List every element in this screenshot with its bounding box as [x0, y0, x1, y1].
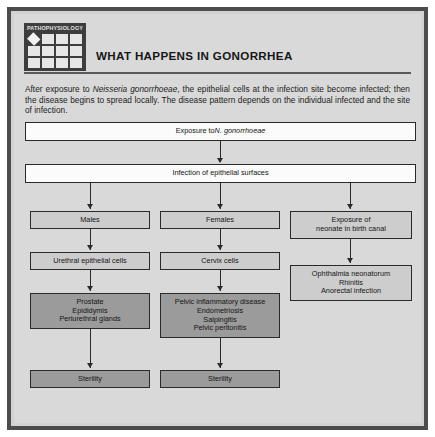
intro-paragraph: After exposure to Neisseria gonorrhoeae,… — [25, 84, 410, 116]
page-title: WHAT HAPPENS IN GONORRHEA — [96, 49, 293, 62]
flow-box-male-complications: Prostate Epididymis Periurethral glands — [30, 293, 150, 329]
flow-box-females: Females — [160, 211, 280, 229]
flowchart: Exposure to N. gonorrhoeae Infection of … — [25, 122, 410, 415]
flow-box-female-complications: Pelvic inflammatory disease Endometriosi… — [160, 293, 280, 338]
badge-cell — [56, 58, 68, 68]
flow-box-urethral-cells: Urethral epithelial cells — [30, 252, 150, 270]
flow-box-cervix-cells: Cervix cells — [160, 252, 280, 270]
badge-cell — [70, 46, 82, 56]
arrowhead-prostate — [87, 286, 93, 291]
exposure-text-before: Exposure to — [176, 127, 215, 136]
intro-organism-name: Neisseria gonorrhoeae — [93, 84, 178, 94]
badge-cell — [70, 34, 82, 44]
badge-cell — [56, 34, 68, 44]
flow-box-exposure: Exposure to N. gonorrhoeae — [25, 122, 416, 141]
arrowhead-males — [87, 204, 93, 209]
badge-cell — [56, 46, 68, 56]
arrowhead-urethral — [87, 245, 93, 250]
arrowhead-female-sterility — [217, 363, 223, 368]
badge-cell — [42, 58, 54, 68]
exposure-organism-name: N. gonorrhoeae — [215, 127, 266, 136]
flow-box-male-sterility: Sterility — [30, 370, 150, 388]
intro-text-before: After exposure to — [25, 84, 93, 94]
figure-frame: PATHOPHYSIOLOGY WHAT HAPPENS IN GONORRHE… — [7, 7, 428, 430]
badge-grid-icon — [28, 34, 82, 68]
badge-cell — [28, 46, 40, 56]
badge-cell — [42, 34, 54, 44]
arrowhead-male-sterility — [87, 363, 93, 368]
flow-box-female-sterility: Sterility — [160, 370, 280, 388]
flow-box-neonate-exposure: Exposure of neonate in birth canal — [290, 211, 412, 239]
flow-box-males: Males — [30, 211, 150, 229]
figure-header: PATHOPHYSIOLOGY WHAT HAPPENS IN GONORRHE… — [24, 23, 411, 73]
arrowhead-infection — [217, 158, 223, 163]
badge-cell-diamond — [28, 34, 40, 44]
pathophysiology-badge: PATHOPHYSIOLOGY — [24, 23, 86, 71]
arrowhead-neonate-conditions — [347, 258, 353, 263]
arrowhead-females — [217, 204, 223, 209]
header-divider — [24, 72, 411, 74]
figure-panel: PATHOPHYSIOLOGY WHAT HAPPENS IN GONORRHE… — [14, 14, 421, 423]
arrowhead-neonate — [347, 204, 353, 209]
arrowhead-cervix — [217, 245, 223, 250]
badge-cell — [28, 58, 40, 68]
flow-box-neonate-conditions: Ophthalmia neonatorum Rhinitis Anorectal… — [290, 265, 412, 301]
arrowhead-pid — [217, 286, 223, 291]
badge-cell — [70, 58, 82, 68]
flow-box-infection: Infection of epithelial surfaces — [25, 164, 416, 183]
badge-cell — [42, 46, 54, 56]
